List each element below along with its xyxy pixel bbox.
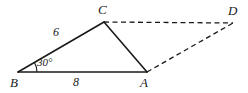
vertex-label-d: D [228,4,237,17]
geometry-figure: B C A D 6 8 30° [0,0,248,93]
angle-measure-label-b: 30° [37,57,52,68]
edge-cd-line [104,22,233,23]
side-length-label-ba: 8 [73,76,79,88]
vertex-label-b: B [10,76,18,89]
side-length-label-bc: 6 [53,26,59,38]
vertex-label-c: C [98,3,107,16]
vertex-label-a: A [140,76,148,89]
edge-ad-line [147,23,233,72]
figure-canvas [0,0,248,93]
edge-ca-line [104,22,147,72]
edge-bc-line [18,22,104,72]
